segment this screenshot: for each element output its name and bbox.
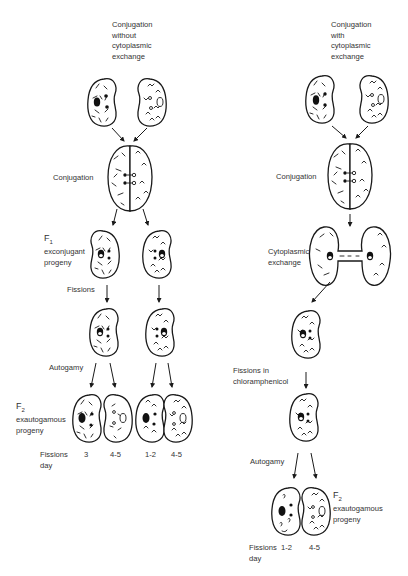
exconjugant-cell-icon: [292, 311, 320, 358]
parent-cell-a-icon: [88, 79, 116, 126]
post-fission-cell-a-icon: [90, 309, 118, 356]
left-fission-value-4: 4-5: [171, 450, 182, 461]
arrow-down-icon: [113, 209, 117, 225]
right-autogamy-label: Autogamy: [250, 457, 284, 468]
f2-cell-3-icon: [136, 395, 164, 442]
left-fissions-label: Fissions: [67, 285, 95, 296]
f2-cell-2-icon: [104, 395, 132, 442]
right-cytoplasmic-exchange-label: Cytoplasmic exchange: [268, 247, 309, 268]
arrow-down-icon: [356, 126, 368, 138]
left-parent-cells: [88, 79, 166, 126]
right-title: Conjugation with cytoplasmic exchange: [331, 20, 372, 62]
f1-label: F1 exconjugant progeny: [44, 233, 85, 268]
arrow-down-icon: [332, 126, 346, 138]
conjugating-pair-icon: [108, 146, 152, 211]
arrow-down-icon: [152, 363, 156, 387]
right-fissions-day-label: Fissions day: [249, 543, 277, 564]
right-parent-cell-b-icon: [360, 76, 388, 123]
right-fissions-chloramphenicol-label: Fissions in chloramphenicol: [233, 366, 288, 387]
cytoplasmic-exchange-pair-icon: [310, 227, 391, 285]
arrow-down-icon: [91, 363, 96, 387]
left-fission-value-2: 4-5: [110, 450, 121, 461]
left-conjugation-label: Conjugation: [53, 173, 94, 184]
right-parent-cell-a-icon: [306, 76, 334, 123]
left-title: Conjugation without cytoplasmic exchange: [112, 20, 153, 62]
right-fission-value-1: 1-2: [281, 543, 292, 554]
arrow-down-icon: [112, 128, 124, 141]
left-autogamy-label: Autogamy: [49, 363, 83, 374]
left-fissions-day-label: Fissions day: [40, 450, 68, 471]
arrow-down-icon: [312, 282, 330, 302]
parent-cell-b-icon: [138, 79, 166, 126]
arrow-down-icon: [168, 363, 172, 387]
post-chloramphenicol-cell-icon: [290, 394, 318, 441]
right-f2-label: F2 exautogamous progeny: [333, 490, 383, 525]
right-conjugating-pair-icon: [328, 144, 372, 209]
arrow-down-icon: [311, 453, 316, 478]
f1-cell-b-icon: [143, 231, 171, 278]
right-fission-value-2: 4-5: [309, 543, 320, 554]
arrow-down-icon: [134, 128, 147, 141]
right-f2-cell-1-icon: [272, 488, 300, 535]
left-fission-value-3: 1-2: [145, 450, 156, 461]
post-fission-cell-b-icon: [146, 309, 174, 356]
f2-cell-4-icon: [164, 395, 192, 442]
arrow-down-icon: [143, 209, 148, 225]
left-fission-value-1: 3: [84, 450, 88, 461]
arrow-down-icon: [110, 363, 115, 387]
arrow-down-icon: [294, 453, 298, 478]
right-conjugation-label: Conjugation: [276, 172, 317, 183]
right-f2-cell-2-icon: [302, 488, 330, 535]
f1-cell-a-icon: [91, 231, 119, 278]
left-f2-label: F2 exautogamous progeny: [16, 401, 66, 436]
f2-cell-1-icon: [73, 395, 101, 442]
